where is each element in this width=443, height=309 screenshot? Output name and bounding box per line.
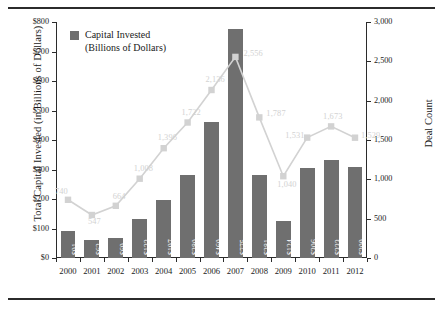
y-tick-label-left: $0 — [15, 253, 49, 262]
x-tick-mark — [80, 258, 81, 262]
bar-value-label: $309 — [358, 239, 367, 255]
y-tick-mark-left — [52, 170, 56, 171]
y-tick-label-right: 3,000 — [374, 17, 408, 26]
bar-value-label: $460 — [215, 239, 224, 255]
bar-value-label: $91 — [71, 243, 80, 255]
y-tick-label-right: 2,500 — [374, 56, 408, 65]
y-tick-label-left: $500 — [15, 106, 49, 115]
y-tick-mark-left — [52, 111, 56, 112]
y-tick-mark-right — [367, 61, 371, 62]
y-tick-label-right: 0 — [374, 253, 408, 262]
line-value-label: 2,136 — [206, 75, 225, 84]
line-value-label: 1,396 — [158, 133, 177, 142]
line-value-label: 1,008 — [134, 164, 153, 173]
plot-area: Total Capital Invested (in Billions of D… — [0, 0, 443, 309]
x-tick-mark — [128, 258, 129, 262]
x-tick-mark — [247, 258, 248, 262]
line-value-label: 2,556 — [243, 49, 262, 58]
x-tick-mark — [104, 258, 105, 262]
y-tick-mark-left — [52, 229, 56, 230]
y-tick-mark-right — [367, 179, 371, 180]
y-tick-mark-left — [52, 81, 56, 82]
y-tick-label-left: $100 — [15, 224, 49, 233]
line-value-label: 1,040 — [277, 180, 296, 189]
bar-value-label: $281 — [263, 239, 272, 255]
y-tick-mark-right — [367, 140, 371, 141]
legend-label-capital-invested: Capital Invested (Billions of Dollars) — [85, 29, 166, 54]
line-value-label: 1,722 — [182, 108, 201, 117]
bar-value-label: $280 — [191, 239, 200, 255]
bar — [204, 122, 219, 258]
y-tick-mark-right — [367, 219, 371, 220]
bar-value-label: $306 — [310, 239, 319, 255]
x-tick-mark — [200, 258, 201, 262]
bar-value-label: $333 — [334, 239, 343, 255]
x-tick-mark — [56, 258, 57, 262]
x-tick-label: 2012 — [340, 266, 370, 276]
y-tick-label-left: $400 — [15, 135, 49, 144]
line-value-label: 740 — [55, 187, 68, 196]
y-tick-label-right: 500 — [374, 214, 408, 223]
x-tick-mark — [367, 258, 368, 262]
x-tick-mark — [343, 258, 344, 262]
legend-swatch-capital-invested — [70, 31, 79, 40]
y-axis-title-right: Deal Count — [423, 34, 434, 214]
x-tick-mark — [319, 258, 320, 262]
y-tick-label-right: 1,000 — [374, 174, 408, 183]
y-tick-mark-left — [52, 140, 56, 141]
line-value-label: 1,529 — [361, 131, 380, 140]
x-tick-mark — [223, 258, 224, 262]
y-tick-label-left: $200 — [15, 194, 49, 203]
bar — [228, 29, 243, 258]
bar-value-label: $197 — [167, 239, 176, 255]
x-tick-mark — [295, 258, 296, 262]
legend: Capital Invested (Billions of Dollars) — [70, 29, 166, 54]
bar-value-label: $69 — [119, 243, 128, 255]
x-tick-mark — [271, 258, 272, 262]
y-tick-label-left: $700 — [15, 47, 49, 56]
line-value-label: 547 — [88, 217, 101, 226]
bar-value-label: $62 — [95, 243, 104, 255]
line-value-label: 664 — [113, 192, 126, 201]
y-tick-label-right: 2,000 — [374, 96, 408, 105]
line-value-label: 1,531 — [285, 131, 304, 140]
y-tick-mark-left — [52, 199, 56, 200]
y-tick-label-left: $300 — [15, 165, 49, 174]
y-axis-title-left: Total Capital Invested (in Billions of D… — [32, 0, 43, 249]
y-tick-mark-right — [367, 22, 371, 23]
y-tick-mark-left — [52, 52, 56, 53]
bar-value-label: $133 — [143, 239, 152, 255]
y-tick-mark-right — [367, 101, 371, 102]
line-value-label: 1,673 — [323, 112, 342, 121]
y-tick-label-left: $600 — [15, 76, 49, 85]
line-value-label: 1,787 — [266, 109, 285, 118]
x-tick-mark — [176, 258, 177, 262]
bar-value-label: $775 — [239, 239, 248, 255]
bar-value-label: $124 — [286, 239, 295, 255]
y-tick-mark-left — [52, 22, 56, 23]
chart-figure: Total Capital Invested (in Billions of D… — [0, 0, 443, 309]
x-tick-mark — [152, 258, 153, 262]
y-tick-label-left: $800 — [15, 17, 49, 26]
